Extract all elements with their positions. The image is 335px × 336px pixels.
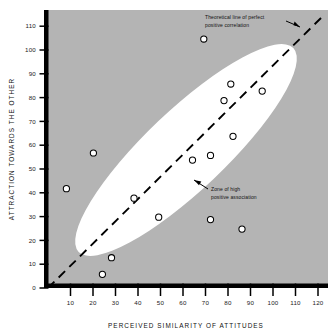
x-tick-label: 80 — [224, 299, 232, 306]
y-tick-label: 40 — [29, 189, 37, 196]
data-point — [99, 271, 105, 277]
data-point — [207, 217, 213, 223]
x-tick-label: 90 — [247, 299, 255, 306]
y-tick-label: 50 — [29, 165, 37, 172]
y-tick-label: 10 — [29, 260, 37, 267]
x-tick-label: 10 — [67, 299, 75, 306]
y-tick-label: 30 — [29, 213, 37, 220]
x-tick-label: 40 — [134, 299, 142, 306]
x-tick-label: 100 — [268, 299, 279, 306]
data-point — [221, 98, 227, 104]
data-point — [207, 152, 213, 158]
data-point — [189, 157, 195, 163]
x-tick-label: 110 — [290, 299, 301, 306]
data-point — [131, 195, 137, 201]
data-point — [201, 36, 207, 42]
x-tick-label: 20 — [89, 299, 97, 306]
y-tick-label: 110 — [26, 22, 37, 29]
y-tick-label: 70 — [29, 118, 37, 125]
y-axis-title: ATTRACTION TOWARDS THE OTHER — [8, 78, 15, 220]
y-tick-label: 90 — [29, 70, 37, 77]
data-point — [156, 214, 162, 220]
x-tick-label: 30 — [112, 299, 120, 306]
data-point — [230, 133, 236, 139]
zone-annotation-line1: Zone of high — [211, 186, 240, 192]
chart-svg: Theoretical line of perfect positive cor… — [0, 0, 335, 336]
data-point — [239, 226, 245, 232]
zone-annotation-line2: positive association — [211, 194, 257, 200]
x-tick-label: 70 — [202, 299, 210, 306]
data-point — [108, 255, 114, 261]
x-axis-title: PERCEIVED SIMILARITY OF ATTITUDES — [108, 322, 264, 329]
y-axis-line — [44, 10, 49, 288]
x-tick-label: 120 — [313, 299, 324, 306]
y-tick-label: 20 — [29, 237, 37, 244]
y-tick-label: 0 — [32, 284, 36, 291]
y-tick-label: 100 — [25, 46, 36, 53]
data-point — [228, 81, 234, 87]
x-tick-label: 50 — [157, 299, 165, 306]
scatter-plot-figure: Theoretical line of perfect positive cor… — [0, 0, 335, 336]
data-point — [259, 88, 265, 94]
theoretical-line-annotation-line1: Theoretical line of perfect — [205, 14, 265, 20]
y-tick-label: 80 — [29, 94, 37, 101]
x-axis-line — [44, 284, 328, 289]
data-point — [90, 150, 96, 156]
theoretical-line-annotation-line2: positive correlation — [205, 22, 249, 28]
x-tick-label: 60 — [179, 299, 187, 306]
data-point — [63, 186, 69, 192]
y-tick-label: 60 — [29, 141, 37, 148]
